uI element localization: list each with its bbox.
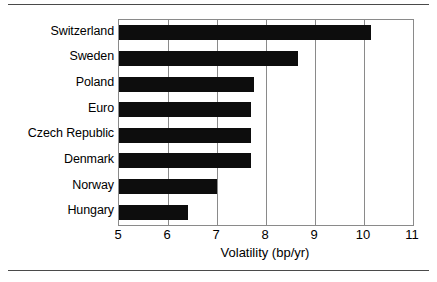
- x-tick-label: 10: [356, 227, 370, 243]
- plot-area: [118, 19, 414, 226]
- x-tick-label: 6: [163, 227, 170, 243]
- category-label: Switzerland: [0, 25, 114, 38]
- bar: [119, 25, 371, 40]
- bar: [119, 205, 188, 220]
- category-label: Hungary: [0, 204, 114, 217]
- x-tick-label: 9: [310, 227, 317, 243]
- bar: [119, 153, 251, 168]
- bar: [119, 51, 298, 66]
- y-axis-category-labels: SwitzerlandSwedenPolandEuroCzech Republi…: [0, 19, 114, 224]
- x-axis-tick-labels: 567891011: [0, 227, 437, 245]
- bar: [119, 102, 251, 117]
- category-label: Czech Republic: [0, 127, 114, 140]
- bar: [119, 128, 251, 143]
- category-label: Sweden: [0, 50, 114, 63]
- x-tick-label: 11: [405, 227, 419, 243]
- category-label: Denmark: [0, 153, 114, 166]
- category-label: Poland: [0, 76, 114, 89]
- figure: SwitzerlandSwedenPolandEuroCzech Republi…: [0, 0, 437, 282]
- bars-layer: [119, 20, 413, 225]
- bar: [119, 77, 254, 92]
- x-tick-label: 5: [114, 227, 121, 243]
- x-tick-label: 7: [212, 227, 219, 243]
- category-label: Euro: [0, 102, 114, 115]
- category-label: Norway: [0, 179, 114, 192]
- top-rule: [8, 4, 429, 5]
- bar: [119, 179, 217, 194]
- x-axis-title: Volatility (bp/yr): [118, 245, 412, 261]
- bottom-rule: [8, 270, 429, 271]
- x-tick-label: 8: [261, 227, 268, 243]
